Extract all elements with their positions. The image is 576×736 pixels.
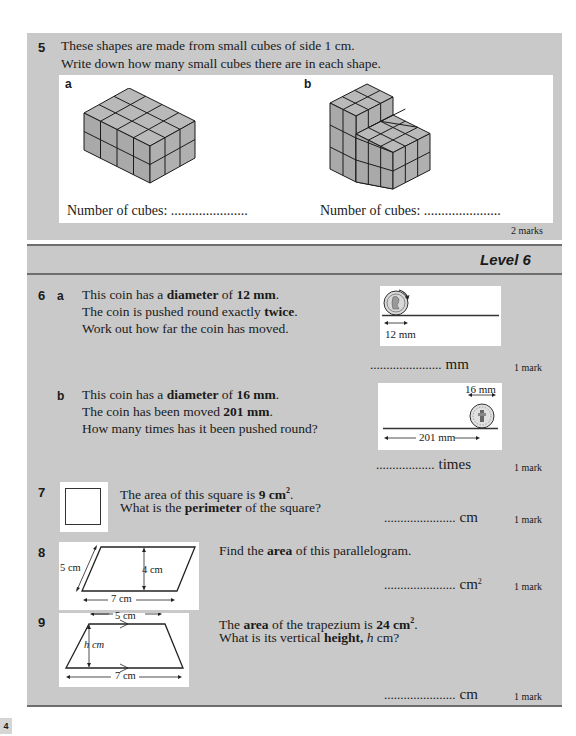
marks-label: 1 mark — [514, 514, 542, 525]
answer-field-a[interactable]: Number of cubes: ...................... — [67, 203, 248, 219]
question-number: 6 — [38, 288, 45, 303]
marks-label: 2 marks — [511, 225, 543, 236]
part-label-a: a — [65, 77, 72, 91]
height-label: h cm — [84, 639, 104, 650]
question-text: This coin has a diameter of 16 mm. — [82, 387, 279, 403]
marks-label: 1 mark — [514, 581, 542, 592]
question-text: Write down how many small cubes there ar… — [61, 56, 381, 72]
answer-field-8[interactable]: ......................cm2 — [384, 576, 482, 593]
answer-field-7[interactable]: ......................cm — [384, 509, 478, 526]
square-diagram — [60, 482, 108, 532]
question-number: 8 — [38, 545, 45, 560]
diameter-label: 16 mm — [465, 383, 496, 395]
base-label: 7 cm — [111, 593, 132, 604]
side-label: 5 cm — [60, 562, 81, 573]
top-label: 5 cm — [115, 610, 136, 621]
question-number: 7 — [38, 485, 45, 500]
question-number: 9 — [38, 615, 45, 630]
marks-label: 1 mark — [514, 691, 542, 702]
height-label: 4 cm — [142, 564, 163, 575]
level-heading: Level 6 — [480, 251, 531, 268]
marks-label: 1 mark — [514, 462, 542, 473]
answer-field-9[interactable]: ......................cm — [384, 686, 478, 703]
answer-field-6b[interactable]: ..................times — [376, 456, 471, 473]
answer-field-b[interactable]: Number of cubes: ...................... — [320, 203, 501, 219]
question-text: How many times has it been pushed round? — [82, 421, 318, 437]
question-text: What is the perimeter of the square? — [120, 500, 321, 516]
question-text: These shapes are made from small cubes o… — [61, 38, 355, 54]
divider — [27, 705, 562, 707]
coin-diagram-a: 12 mm — [380, 286, 501, 346]
part-label-b: b — [304, 77, 311, 91]
distance-label: 201 mm — [419, 431, 455, 443]
square-shape — [65, 488, 101, 525]
question-text: The coin has been moved 201 mm. — [82, 404, 273, 420]
parallelogram-diagram: 5 cm 4 cm 7 cm — [59, 542, 199, 610]
marks-label: 1 mark — [514, 362, 542, 373]
trapezium-diagram: 5 cm h cm 7 cm — [59, 613, 189, 687]
question-text: Find the area of this parallelogram. — [219, 543, 411, 559]
cuboid-shape-a — [80, 88, 200, 188]
page-number: 4 — [0, 718, 12, 734]
question-text: What is its vertical height, h cm? — [219, 630, 399, 646]
base-label: 7 cm — [115, 670, 136, 681]
question-text: This coin has a diameter of 12 mm. — [82, 287, 279, 303]
part-label-b: b — [57, 389, 64, 403]
question-text: The coin is pushed round exactly twice. — [82, 304, 298, 320]
question-number: 5 — [38, 40, 45, 55]
stepped-shape-b — [318, 82, 448, 192]
diameter-label: 12 mm — [385, 328, 416, 340]
answer-field-6a[interactable]: ......................mm — [370, 356, 469, 373]
coin-diagram-b: 16 mm 201 mm — [378, 383, 502, 450]
question-text: Work out how far the coin has moved. — [82, 321, 289, 337]
part-label-a: a — [57, 289, 64, 303]
